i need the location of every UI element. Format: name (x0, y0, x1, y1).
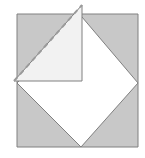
geometry-figure-svg: paper folding geometry figure A shaded s… (0, 0, 145, 158)
geometry-figure-container: paper folding geometry figure A shaded s… (0, 0, 145, 158)
